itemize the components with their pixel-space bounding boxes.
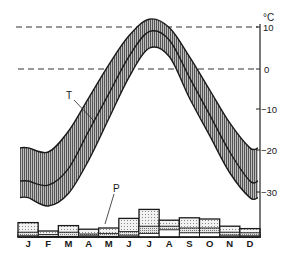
temperature-band [20, 19, 258, 206]
precipitation-pointer [105, 194, 114, 224]
y-tick-minus-10: −10 [261, 104, 277, 115]
y-tick-minus-30: −30 [261, 187, 277, 198]
month-label: S [186, 238, 192, 249]
month-label: O [206, 238, 213, 249]
month-label: M [64, 238, 72, 249]
month-label: J [25, 238, 30, 249]
precipitation-label: P [113, 183, 120, 194]
temperature-label: T [66, 90, 72, 101]
month-label: D [246, 238, 253, 249]
month-label: A [85, 238, 92, 249]
month-label: N [226, 238, 233, 249]
x-axis-month-labels: JFMAMJJASOND [25, 238, 253, 249]
month-label: J [146, 238, 151, 249]
month-label: M [105, 238, 113, 249]
precip-bar-layer-3 [159, 230, 179, 237]
y-tick-10: 10 [263, 22, 274, 33]
month-label: J [126, 238, 131, 249]
y-axis: °C 10 0 −10 −20 −30 [256, 12, 277, 238]
precipitation-bars [18, 209, 260, 237]
month-label: A [166, 238, 173, 249]
month-label: F [45, 238, 51, 249]
climate-diagram: °C 10 0 −10 −20 −30 T P JFMAMJJASOND [0, 0, 292, 257]
y-tick-0: 0 [264, 64, 269, 75]
y-tick-minus-20: −20 [261, 145, 277, 156]
